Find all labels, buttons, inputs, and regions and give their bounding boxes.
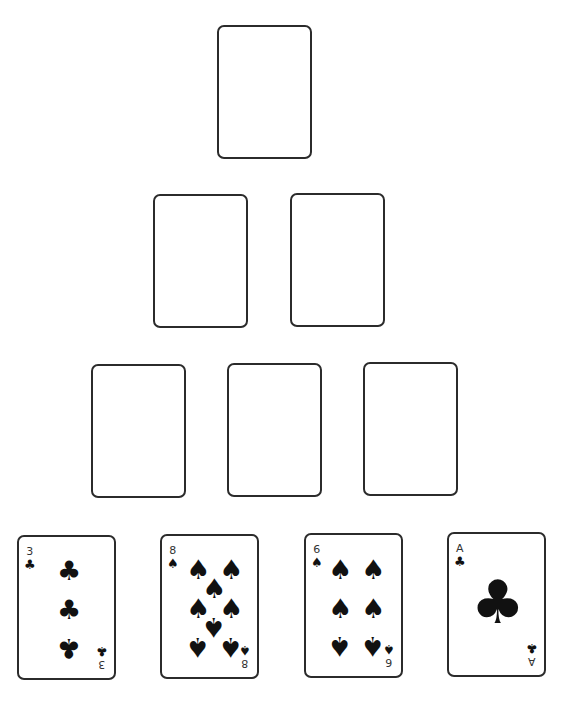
card-rank: A [456,543,464,554]
club-pip-icon: ♣ [57,596,81,623]
card-corner-index: 8♠ [167,545,179,570]
card-rank: 3 [99,659,106,670]
card-rank: 8 [169,545,176,556]
card-corner-index: A♣ [454,543,466,568]
pyramid-slot-r2-c2[interactable] [290,193,385,327]
pyramid-slot-r2-c1[interactable] [153,194,248,328]
card-rank: 6 [386,657,393,668]
pyramid-slot-r1-c1[interactable] [217,25,312,159]
pyramid-slot-r3-c3[interactable] [363,362,458,496]
card-corner-index: 3♣ [96,645,108,670]
card-rank: A [528,656,536,667]
club-icon: ♣ [96,645,108,658]
card-a-of-clubs[interactable]: A♣A♣♣ [447,532,546,677]
club-icon: ♣ [454,555,466,568]
spade-pip-icon: ♠ [186,634,210,661]
card-8-of-spades[interactable]: 8♠8♠♠♠♠♠♠♠♠♠ [160,534,259,679]
card-corner-index: 6♠ [311,544,323,569]
spade-pip-icon: ♠ [219,634,243,661]
card-6-of-spades[interactable]: 6♠6♠♠♠♠♠♠♠ [304,533,403,678]
spade-pip-icon: ♠ [361,556,385,583]
club-pip-icon: ♣ [57,557,81,584]
club-icon: ♣ [526,642,538,655]
club-pip-icon: ♣ [57,635,81,662]
spade-pip-icon: ♠ [361,595,385,622]
club-icon: ♣ [24,558,36,571]
pyramid-slot-r3-c2[interactable] [227,363,322,497]
spade-pip-icon: ♠ [328,633,352,660]
spade-pip-icon: ♠ [328,595,352,622]
card-rank: 6 [313,544,320,555]
spade-icon: ♠ [311,556,323,569]
card-corner-index: A♣ [526,642,538,667]
spade-pip-icon: ♠ [328,556,352,583]
card-3-of-clubs[interactable]: 3♣3♣♣♣♣ [17,535,116,680]
spade-pip-icon: ♠ [361,633,385,660]
pyramid-slot-r3-c1[interactable] [91,364,186,498]
club-pip-icon: ♣ [471,572,525,632]
spade-icon: ♠ [167,557,179,570]
card-corner-index: 3♣ [24,546,36,571]
card-rank: 3 [26,546,33,557]
